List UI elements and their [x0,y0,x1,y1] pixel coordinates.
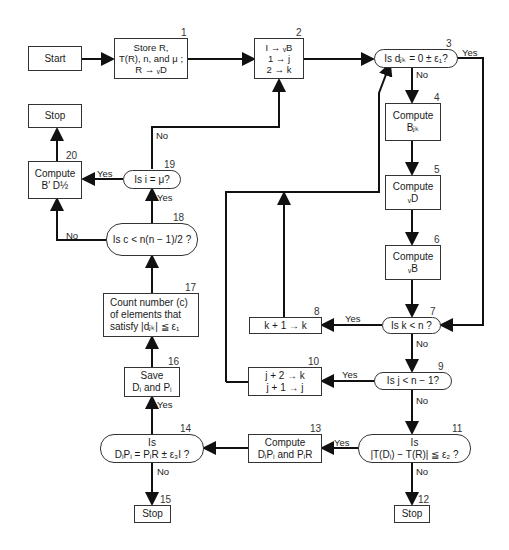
stop-terminal-top: Stop [28,104,82,128]
node-4-number: 4 [434,92,440,103]
node-19-no-label: No [156,130,168,141]
node-4-compute: Compute Bⱼₖ [385,103,441,141]
node-1-line2: T(R), n, and μ ; [119,53,183,64]
node-16-number: 16 [168,356,179,367]
node-9-yes-label: Yes [342,369,358,380]
node-13-line1: Compute [265,437,306,449]
node-9-decision: Is j < n − 1? [374,372,452,390]
node-20-number: 20 [66,150,77,161]
node-6-compute: Compute ᵥB [385,245,441,280]
node-1-line1: Store R, [134,42,169,53]
node-10-number: 10 [308,356,319,367]
node-19-number: 19 [164,159,175,170]
node-2-line2: 1 → j [268,53,290,64]
node-19-text: Is i = μ? [134,174,170,186]
node-20-compute: Compute B′ D½ [28,161,82,199]
node-15-number: 15 [160,494,171,505]
node-1-line3: R → ᵥD [135,64,167,75]
node-7-decision: Is k < n ? [382,317,441,334]
node-14-no-label: No [157,466,169,477]
node-4-line2: Bⱼₖ [407,122,420,134]
node-14-decision: Is DᵢPᵢ = PᵢR ± ε₃I ? [100,434,204,463]
node-8-number: 8 [314,306,320,317]
node-17-line3: satisfy |dⱼₖ| ≦ ε₁ [110,321,179,333]
node-2-init: I → ᵥB 1 → j 2 → k [254,38,304,79]
node-6-number: 6 [434,234,440,245]
node-10-increment-jk: j + 2 → k j + 1 → j [248,367,322,396]
node-1-store: Store R, T(R), n, and μ ; R → ᵥD [114,38,188,79]
node-2-line1: I → ᵥB [266,42,293,53]
node-7-text: Is k < n ? [391,320,432,332]
start-terminal: Start [28,46,82,71]
node-18-decision: Is c < n(n − 1)/2 ? [106,223,198,256]
node-3-no-label: No [416,69,428,80]
node-10-line2: j + 1 → j [267,382,304,394]
node-15-stop: Stop [134,505,171,523]
node-14-number: 14 [180,423,191,434]
node-3-text: Is dⱼₖ = 0 ± ε₁? [384,53,448,65]
start-label: Start [44,53,65,65]
node-7-no-label: No [416,338,428,349]
node-13-line2: DᵢPᵢ and PᵢR [258,449,313,461]
node-11-line2: |T(Dᵢ) − T(R)| ≦ ε₂ ? [370,449,458,461]
node-18-number: 18 [173,212,184,223]
node-18-yes-label: Yes [157,192,173,203]
node-10-line1: j + 2 → k [265,370,305,382]
node-7-number: 7 [430,306,436,317]
node-16-line1: Save [141,370,164,382]
node-15-text: Stop [142,508,163,520]
node-17-line1: Count number (c) [110,297,188,309]
node-12-number: 12 [418,494,429,505]
node-9-number: 9 [438,361,444,372]
node-7-yes-label: Yes [345,313,361,324]
node-11-line1: Is [411,437,419,449]
node-14-line2: DᵢPᵢ = PᵢR ± ε₃I ? [115,449,190,461]
node-9-no-label: No [416,395,428,406]
node-14-yes-label: Yes [157,399,173,410]
node-16-line2: Dᵢ and Pᵢ [132,382,171,394]
node-14-line1: Is [148,437,156,449]
node-18-no-label: No [66,230,78,241]
node-6-line2: ᵥB [408,263,418,275]
node-12-text: Stop [402,508,423,520]
node-3-yes-label: Yes [462,47,478,58]
node-11-number: 11 [452,423,462,434]
node-11-no-label: No [416,466,428,477]
node-8-text: k + 1 → k [264,320,307,332]
node-13-compute: Compute DᵢPᵢ and PᵢR [248,434,322,463]
node-18-text: Is c < n(n − 1)/2 ? [113,234,191,246]
node-19-yes-label: Yes [97,168,113,179]
stop-top-label: Stop [45,110,66,122]
node-13-number: 13 [310,423,321,434]
node-12-stop: Stop [394,505,430,523]
node-3-number: 3 [446,38,452,49]
node-5-compute: Compute ᵥD [385,175,441,210]
node-16-save: Save Dᵢ and Pᵢ [124,367,180,397]
node-2-number: 2 [296,27,302,38]
node-11-yes-label: Yes [334,437,350,448]
node-3-decision: Is dⱼₖ = 0 ± ε₁? [374,49,458,68]
node-20-line1: Compute [35,168,76,180]
node-5-line1: Compute [393,181,434,193]
node-19-decision: Is i = μ? [123,170,181,189]
node-20-line2: B′ D½ [42,180,69,192]
node-8-increment-k: k + 1 → k [249,317,322,334]
node-2-line3: 2 → k [267,64,292,75]
node-5-line2: ᵥD [408,193,418,205]
node-1-number: 1 [181,27,187,38]
node-17-number: 17 [185,282,196,293]
node-9-text: Is j < n − 1? [387,375,439,387]
node-4-line1: Compute [393,110,434,122]
node-17-line2: of elements that [110,309,181,321]
node-11-decision: Is |T(Dᵢ) − T(R)| ≦ ε₂ ? [358,434,471,463]
node-17-count: Count number (c) of elements that satisf… [103,293,199,337]
node-6-line1: Compute [393,251,434,263]
node-5-number: 5 [434,164,440,175]
